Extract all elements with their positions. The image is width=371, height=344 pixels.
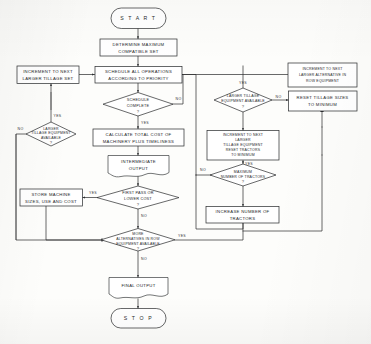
node-largerleft-line1: LARGER	[43, 127, 59, 131]
node-intermediate-output: INTERMEDIATE OUTPUT	[108, 156, 169, 177]
node-final-label: FINAL OUTPUT	[121, 283, 155, 288]
flowchart-canvas: S T A R T DETERMINE MAXIMUM COMPATIBLE S…	[0, 0, 371, 344]
node-increment-tillage-set: INCREMENT TO NEXT LARGER TILLAGE SET	[17, 66, 79, 84]
node-calculate-line2: MACHINERY PLUS TIMELINESS	[103, 139, 175, 144]
node-incrementreset-line4: RESET TRACTORS	[226, 148, 261, 152]
node-largerright-line2: EQUIPMENT AVAILABLE	[221, 99, 265, 103]
node-largerleft-question: ?	[50, 140, 53, 145]
node-incrementset-line1: INCREMENT TO NEXT	[23, 69, 73, 74]
label-largerright-yes: YES	[239, 81, 247, 85]
node-firstpass-line2: LOWER COST	[124, 197, 152, 201]
label-complete-yes: YES	[141, 121, 149, 125]
node-determine-set: DETERMINE MAXIMUM COMPATIBLE SET	[100, 39, 177, 56]
node-increase-tractors: INCREASE NUMBER OF TRACTORS	[206, 207, 279, 224]
label-maxtractors-no: NO	[200, 168, 206, 172]
label-largerleft-no: NO	[18, 127, 24, 131]
node-more-question: ?	[137, 246, 140, 251]
node-schedule-line2: ACCORDING TO PRIORITY	[108, 76, 168, 81]
label-firstpass-no: NO	[141, 214, 147, 218]
label-largerleft-yes: YES	[53, 114, 61, 118]
node-rowequip-line2: LARGER ALTERNATIVE IN	[299, 73, 347, 77]
label-more-no: NO	[141, 257, 147, 261]
node-complete-question: ?	[137, 109, 140, 114]
node-start-label: S T A R T	[120, 15, 156, 21]
label-firstpass-yes: YES	[89, 191, 97, 195]
node-stop-label: S T O P	[124, 315, 153, 321]
node-incrementreset-line1: INCREMENT TO NEXT	[223, 133, 264, 137]
node-incrementreset-line3: TILLAGE EQUIPMENT	[223, 143, 263, 147]
node-reset-tillage-sizes: RESET TILLAGE SIZES TO MINIMUM	[289, 91, 358, 111]
node-store-line2: SIZES, USE AND COST	[25, 199, 77, 204]
node-incrementset-line2: LARGER TILLAGE SET	[23, 76, 74, 81]
node-firstpass-question: ?	[137, 202, 140, 207]
node-store-machine: STORE MACHINE SIZES, USE AND COST	[20, 189, 83, 206]
node-schedule-line1: SCHEDULE ALL OPERATIONS	[105, 69, 172, 74]
node-maxtractors-line1: MAXIMUM	[234, 170, 252, 174]
node-maxtractors-line2: NUMBER OF TRACTORS	[221, 175, 266, 179]
node-firstpass-line1: FIRST PASS OR	[122, 191, 154, 195]
edge-right-rail-to-schedule	[182, 75, 196, 176]
node-maxtractors-question: ?	[242, 179, 245, 184]
node-store-line1: STORE MACHINE	[31, 192, 70, 197]
node-largerright-question: ?	[242, 104, 245, 109]
node-reset-line2: TO MINIMUM	[308, 102, 337, 107]
node-determine-line2: COMPATIBLE SET	[118, 49, 159, 54]
edge-largerleft-no-rail	[16, 134, 102, 240]
node-increase-line1: INCREASE NUMBER OF	[216, 209, 270, 214]
node-complete-line2: COMPLETE	[127, 104, 150, 108]
node-largerleft-line2: TILLAGE EQUIPMENT	[31, 131, 71, 135]
node-determine-line1: DETERMINE MAXIMUM	[113, 42, 165, 47]
node-calculate-cost: CALCULATE TOTAL COST OF MACHINERY PLUS T…	[93, 129, 184, 146]
edge-store-to-more	[46, 206, 102, 240]
node-stop: S T O P	[111, 309, 166, 329]
node-larger-tillage-right: LARGER TILLAGE EQUIPMENT AVAILABLE ?	[214, 88, 272, 112]
node-more-line2: ALTERNATIVES IN ROW	[116, 237, 160, 241]
label-largerright-no: NO	[276, 95, 282, 99]
node-incrementreset-line5: TO MINIMUM	[231, 153, 255, 157]
node-incrementreset-line2: LARGER	[235, 138, 251, 142]
node-final-output: FINAL OUTPUT	[109, 278, 168, 299]
node-increment-tillage-reset: INCREMENT TO NEXT LARGER TILLAGE EQUIPME…	[207, 131, 279, 161]
node-schedule-complete: SCHEDULE COMPLETE ?	[103, 93, 173, 117]
node-calculate-line1: CALCULATE TOTAL COST OF	[106, 132, 172, 137]
node-rowequip-line3: ROW EQUIPMENT	[306, 79, 340, 83]
node-intermediate-line1: INTERMEDIATE	[121, 159, 156, 164]
node-reset-line1: RESET TILLAGE SIZES	[297, 95, 349, 100]
node-start: S T A R T	[111, 8, 166, 29]
node-increase-line2: TRACTORS	[230, 216, 256, 221]
node-schedule-ops: SCHEDULE ALL OPERATIONS ACCORDING TO PRI…	[95, 67, 182, 84]
label-maxtractors-yes: YES	[245, 162, 253, 166]
node-rowequip-line1: INCREMENT TO NEXT	[302, 67, 343, 71]
node-increment-row-equipment: INCREMENT TO NEXT LARGER ALTERNATIVE IN …	[288, 63, 357, 87]
node-first-pass: FIRST PASS OR LOWER COST ?	[97, 186, 179, 209]
label-complete-no: NO	[176, 97, 182, 101]
flowchart-svg: S T A R T DETERMINE MAXIMUM COMPATIBLE S…	[0, 0, 371, 344]
node-more-alternatives: MORE ALTERNATIVES IN ROW EQUIPMENT AVAIL…	[101, 229, 175, 252]
node-largerright-line1: LARGER TILLAGE	[227, 94, 260, 98]
node-larger-tillage-left: LARGER TILLAGE EQUIPMENT AVAILABLE ?	[26, 122, 76, 146]
label-more-yes: YES	[178, 234, 186, 238]
node-more-line1: MORE	[132, 232, 144, 236]
node-complete-line1: SCHEDULE	[127, 98, 150, 102]
node-max-tractors: MAXIMUM NUMBER OF TRACTORS ?	[210, 164, 276, 186]
node-intermediate-line2: OUTPUT	[129, 166, 148, 171]
